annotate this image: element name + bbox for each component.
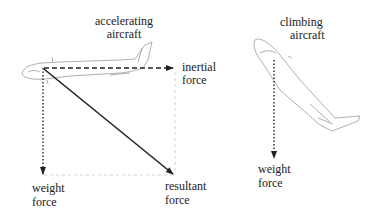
- accelerating-aircraft-icon: [22, 42, 152, 84]
- climbing-weight-force-label-line1: weight: [258, 163, 291, 175]
- climbing-weight-force-label-line2: force: [258, 177, 283, 189]
- inertial-force-label-line2: force: [182, 74, 207, 86]
- resultant-force-label-line1: resultant: [165, 180, 206, 192]
- climbing-title-line2: aircraft: [290, 29, 325, 41]
- weight-force-label-line1: weight: [32, 182, 65, 194]
- climbing-aircraft-icon: [254, 39, 360, 131]
- accelerating-title-line1: accelerating: [84, 15, 164, 27]
- climbing-title-line1: climbing: [280, 16, 323, 28]
- inertial-force-label-line1: inertial: [182, 61, 216, 73]
- accelerating-title-line2: aircraft: [84, 28, 164, 40]
- resultant-force-arrow: [44, 69, 173, 174]
- force-diagram: accelerating aircraft inertial force wei…: [0, 0, 380, 216]
- resultant-force-label-line2: force: [165, 194, 190, 206]
- weight-force-label-line2: force: [32, 196, 57, 208]
